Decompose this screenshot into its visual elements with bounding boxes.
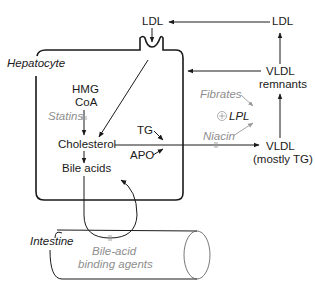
vldl-remnants-label-1: VLDL — [266, 65, 295, 77]
bile-acid-binders-label-1: Bile-acid — [92, 245, 137, 257]
vldl-label-1: VLDL — [266, 140, 295, 152]
apo-label: APO — [130, 149, 154, 161]
apo-arrow — [153, 149, 163, 155]
bile-acids-label: Bile acids — [62, 162, 111, 174]
vldl-label-2: (mostly TG) — [253, 153, 313, 165]
fibrates-label: Fibrates — [200, 88, 242, 100]
ldl-plasma-label: LDL — [272, 15, 294, 27]
vldl-remnants-label-2: remnants — [259, 78, 307, 90]
tg-arrow — [154, 131, 163, 140]
enterohepatic-loop-arrow — [84, 176, 137, 238]
lpl-label: LPL — [229, 110, 249, 122]
intestine-end — [184, 231, 210, 279]
intestine-top — [57, 230, 197, 231]
cholesterol-label: Cholesterol — [58, 138, 116, 150]
lipid-metabolism-diagram: Hepatocyte LDL LDL VLDL remnants VLDL (m… — [0, 0, 315, 295]
intestine-label: Intestine — [30, 235, 73, 247]
hmg-label-2: CoA — [75, 96, 98, 108]
niacin-to-lpl-arrow — [233, 123, 253, 136]
hmg-label-1: HMG — [72, 83, 99, 95]
ldl-receptor-label: LDL — [142, 15, 164, 27]
fibrates-to-lpl-arrow — [241, 95, 253, 106]
hepatocyte-label: Hepatocyte — [7, 57, 65, 69]
tg-label: TG — [137, 124, 153, 136]
statins-label: Statins — [48, 110, 83, 122]
bile-acid-binders-label-2: binding agents — [78, 258, 153, 270]
niacin-label: Niacin — [203, 130, 235, 142]
